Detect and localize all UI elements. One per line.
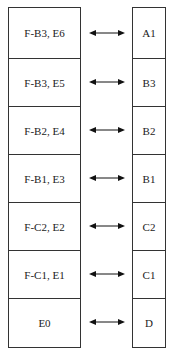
right-cell: D	[133, 298, 165, 347]
bidirectional-arrow-icon	[89, 78, 125, 86]
right-cell: B2	[133, 106, 165, 154]
left-cell: F-B1, E3	[9, 154, 80, 202]
left-cell: E0	[9, 298, 80, 347]
left-cell: F-B3, E6	[9, 8, 80, 58]
bidirectional-arrow-icon	[89, 126, 125, 134]
bidirectional-arrow-icon	[89, 222, 125, 230]
right-column: A1 B3 B2 B1 C2 C1 D	[132, 7, 166, 348]
right-cell: C2	[133, 202, 165, 250]
right-cell: B1	[133, 154, 165, 202]
bidirectional-arrow-icon	[89, 270, 125, 278]
bidirectional-arrow-icon	[89, 29, 125, 37]
left-cell: F-C2, E2	[9, 202, 80, 250]
left-cell: F-B3, E5	[9, 58, 80, 106]
right-cell: A1	[133, 8, 165, 58]
bidirectional-arrow-icon	[89, 174, 125, 182]
left-cell: F-B2, E4	[9, 106, 80, 154]
right-cell: C1	[133, 250, 165, 298]
right-cell: B3	[133, 58, 165, 106]
left-cell: F-C1, E1	[9, 250, 80, 298]
bidirectional-arrow-icon	[89, 318, 125, 326]
left-column: F-B3, E6 F-B3, E5 F-B2, E4 F-B1, E3 F-C2…	[8, 7, 81, 348]
